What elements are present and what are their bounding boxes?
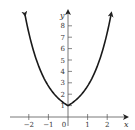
y-tick-label: 5 <box>61 57 65 65</box>
x-axis-label: x <box>124 120 129 129</box>
y-axis-label: y <box>59 11 65 20</box>
x-tick-label: 0 <box>62 121 66 129</box>
graph-svg: −2−101212345678 x y <box>0 0 135 130</box>
x-tick-label: 1 <box>85 121 89 129</box>
y-tick-label: 8 <box>61 22 65 30</box>
y-tick-label: 6 <box>61 45 66 53</box>
x-tick-label: −2 <box>24 121 34 129</box>
y-tick-label: 7 <box>61 34 65 42</box>
x-tick-label: 2 <box>105 121 109 129</box>
tick-labels: −2−101212345678 <box>24 22 110 129</box>
y-tick-label: 2 <box>61 91 65 99</box>
y-tick-label: 3 <box>61 79 65 87</box>
y-tick-label: 4 <box>61 68 66 76</box>
x-tick-label: −1 <box>43 121 53 129</box>
function-graph: −2−101212345678 x y <box>0 0 135 130</box>
